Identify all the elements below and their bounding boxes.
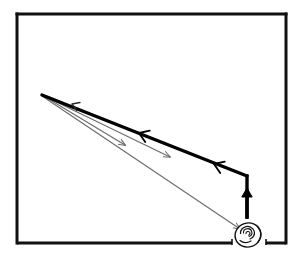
ray-diagram-svg xyxy=(0,0,304,258)
background xyxy=(0,0,304,258)
figure-canvas: Ray reflection diagram with observer's e… xyxy=(0,0,304,258)
